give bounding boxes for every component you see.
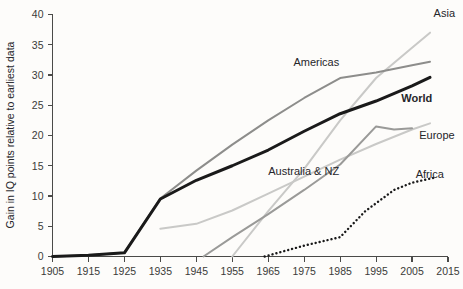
axis-lines <box>53 15 449 257</box>
axes: 0510152025303540190519151925193519451955… <box>32 8 460 276</box>
x-axis-tick-label: 1995 <box>364 265 388 277</box>
y-axis-tick-label: 10 <box>32 190 44 202</box>
series-line-americas <box>53 62 431 257</box>
x-axis-tick-label: 1945 <box>185 265 209 277</box>
series-label-asia: Asia <box>434 7 456 19</box>
iq-gain-line-chart: 0510152025303540190519151925193519451955… <box>0 0 463 289</box>
series-label-world: World <box>401 92 432 104</box>
x-axis-tick-label: 1925 <box>113 265 137 277</box>
x-axis-tick-label: 1975 <box>293 265 317 277</box>
x-axis-tick-label: 2015 <box>436 265 460 277</box>
series-lines <box>53 33 434 257</box>
series-label-americas: Americas <box>293 56 339 68</box>
series-label-africa: Africa <box>416 168 445 180</box>
x-axis-tick-label: 1935 <box>149 265 173 277</box>
series-line-australia-nz <box>204 126 413 256</box>
series-label-australia-nz: Australia & NZ <box>268 165 339 177</box>
x-axis-tick-label: 1965 <box>257 265 281 277</box>
y-axis-tick-label: 5 <box>38 220 44 232</box>
x-axis-tick-label: 1985 <box>328 265 352 277</box>
y-axis-title: Gain in IQ points relative to earliest d… <box>4 41 16 228</box>
series-label-europe: Europe <box>419 129 454 141</box>
y-axis-tick-label: 35 <box>32 39 44 51</box>
y-axis-tick-label: 15 <box>32 160 44 172</box>
y-axis-tick-label: 40 <box>32 8 44 20</box>
series-line-africa <box>265 178 434 257</box>
x-axis-tick-label: 2005 <box>400 265 424 277</box>
chart-canvas: 0510152025303540190519151925193519451955… <box>0 0 463 289</box>
y-axis-tick-label: 25 <box>32 99 44 111</box>
y-axis-tick-label: 20 <box>32 129 44 141</box>
x-axis-tick-label: 1905 <box>41 265 65 277</box>
axis-titles: Gain in IQ points relative to earliest d… <box>4 41 16 228</box>
y-axis-tick-label: 0 <box>38 250 44 262</box>
series-line-world <box>53 77 431 256</box>
y-axis-tick-label: 30 <box>32 69 44 81</box>
x-axis-tick-label: 1915 <box>77 265 101 277</box>
x-axis-tick-label: 1955 <box>221 265 245 277</box>
